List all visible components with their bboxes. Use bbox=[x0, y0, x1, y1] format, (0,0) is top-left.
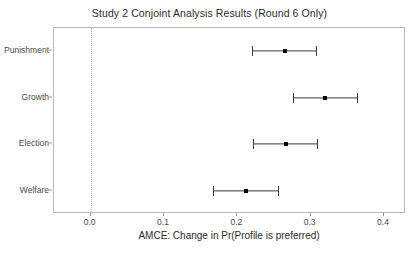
y-axis-tick-mark bbox=[49, 189, 52, 190]
x-axis-tick-label: 0.4 bbox=[377, 217, 389, 227]
x-axis-tick-mark bbox=[236, 213, 237, 216]
x-axis-title: AMCE: Change in Pr(Profile is preferred) bbox=[53, 230, 405, 241]
x-axis-tick-label: 0.0 bbox=[84, 217, 96, 227]
x-axis-tick-label: 0.2 bbox=[230, 217, 242, 227]
confidence-interval-cap bbox=[278, 186, 279, 196]
x-axis-tick-label: 0.1 bbox=[157, 217, 169, 227]
x-axis-tick-mark bbox=[383, 213, 384, 216]
confidence-interval-cap bbox=[357, 93, 358, 103]
page-title: Study 2 Conjoint Analysis Results (Round… bbox=[0, 7, 419, 19]
y-axis-tick-mark bbox=[49, 143, 52, 144]
data-point-marker bbox=[284, 142, 288, 146]
confidence-interval-cap bbox=[252, 46, 253, 56]
y-axis-tick-mark bbox=[49, 50, 52, 51]
confidence-interval-cap bbox=[317, 139, 318, 149]
chart-figure: Study 2 Conjoint Analysis Results (Round… bbox=[0, 0, 419, 253]
x-axis-tick-mark bbox=[310, 213, 311, 216]
data-point-marker bbox=[323, 96, 327, 100]
zero-reference-line bbox=[91, 28, 92, 212]
confidence-interval-cap bbox=[253, 139, 254, 149]
y-axis-tick-mark bbox=[49, 96, 52, 97]
confidence-interval-cap bbox=[316, 46, 317, 56]
y-axis-tick-group bbox=[0, 27, 53, 213]
x-axis-tick-mark bbox=[90, 213, 91, 216]
x-axis-tick-label: 0.3 bbox=[304, 217, 316, 227]
data-point-marker bbox=[283, 49, 287, 53]
confidence-interval-cap bbox=[293, 93, 294, 103]
confidence-interval-cap bbox=[213, 186, 214, 196]
data-point-marker bbox=[244, 189, 248, 193]
x-axis-label-group: 0.00.10.20.30.4 bbox=[53, 217, 405, 231]
x-axis-tick-mark bbox=[163, 213, 164, 216]
plot-panel bbox=[53, 27, 405, 213]
